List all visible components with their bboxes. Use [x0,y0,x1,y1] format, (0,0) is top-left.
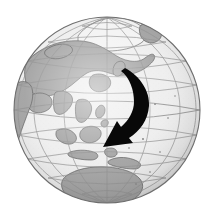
globe-canvas [0,0,215,223]
new-zealand [159,189,166,196]
limb-shading [14,17,200,203]
globe-illustration [0,0,215,223]
